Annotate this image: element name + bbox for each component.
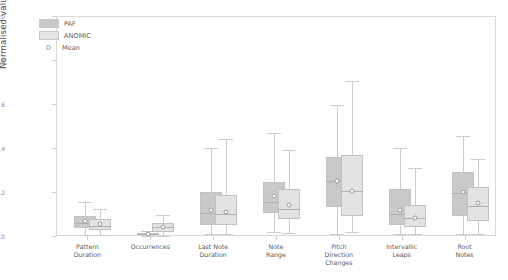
x-tick-mark (402, 236, 403, 240)
x-tick-label: NoteRange (241, 243, 311, 259)
circle-open-icon (46, 45, 51, 50)
whisker-cap-bottom (282, 233, 296, 234)
mean-marker (161, 224, 166, 229)
whisker-cap-bottom (345, 232, 359, 233)
y-tick-label: 1.0 (0, 13, 5, 20)
whisker-cap-bottom (393, 234, 407, 235)
whisker-cap-bottom (78, 235, 92, 236)
x-tick-mark (465, 236, 466, 240)
x-tick-label-line: Notes (430, 251, 500, 259)
whisker-cap-top (456, 136, 470, 137)
whisker-cap-bottom (93, 235, 107, 236)
x-tick-label-line: Last Note (178, 243, 248, 251)
x-tick-label: Last NoteDuration (178, 243, 248, 259)
whisker-cap-bottom (456, 234, 470, 235)
whisker-cap-bottom (330, 234, 344, 235)
whisker-cap-top (282, 150, 296, 151)
whisker-cap-top (345, 81, 359, 82)
x-tick-mark (339, 236, 340, 240)
x-tick-label-line: Direction (304, 251, 374, 259)
mean-marker (475, 201, 480, 206)
whisker-cap-top (78, 202, 92, 203)
whisker-cap-bottom (408, 234, 422, 235)
median-line (278, 209, 300, 210)
whisker-cap-bottom (267, 232, 281, 233)
x-tick-label: RootNotes (430, 243, 500, 259)
whisker-cap-top (408, 168, 422, 169)
x-tick-label-line: Range (241, 251, 311, 259)
y-tick-label: 0.2 (0, 189, 5, 196)
median-line (467, 206, 489, 207)
x-tick-label-line: Root (430, 243, 500, 251)
whisker-cap-bottom (471, 234, 485, 235)
box[interactable] (341, 155, 363, 217)
legend-label: ANOMIC (64, 32, 91, 40)
mean-marker (224, 209, 229, 214)
x-tick-mark (87, 236, 88, 240)
mean-marker (412, 215, 417, 220)
legend-item-anomic[interactable]: ANOMIC (39, 30, 119, 41)
x-tick-label-line: Intervallic (367, 243, 437, 251)
legend-mean-circle-icon (39, 44, 57, 51)
x-tick-mark (276, 236, 277, 240)
whisker-cap-top (204, 148, 218, 149)
mean-marker (272, 194, 277, 199)
x-tick-mark (150, 236, 151, 240)
whisker-cap-top (393, 148, 407, 149)
mean-marker (83, 219, 88, 224)
y-tick-mark (52, 236, 56, 237)
mean-marker (397, 208, 402, 213)
mean-marker (98, 221, 103, 226)
legend-swatch-icon (39, 31, 59, 40)
whisker-cap-bottom (204, 234, 218, 235)
whisker-cap-top (156, 215, 170, 216)
legend-label: Mean (62, 44, 80, 52)
mean-marker (460, 190, 465, 195)
x-tick-label: Occurrences (115, 243, 185, 251)
whisker-cap-top (330, 105, 344, 106)
x-tick-label: PatternDuration (52, 243, 122, 259)
whisker-cap-top (93, 209, 107, 210)
x-tick-label-line: Pitch (304, 243, 374, 251)
x-tick-mark (213, 236, 214, 240)
legend: PAFANOMICMean (39, 18, 119, 54)
legend-label: PAF (64, 20, 76, 28)
x-tick-label-line: Duration (52, 251, 122, 259)
boxplot-figure: Normalised values 0.00.20.40.60.81.0 Pat… (0, 0, 508, 280)
x-tick-label-line: Pattern (52, 243, 122, 251)
x-tick-label-line: Note (241, 243, 311, 251)
whisker-cap-bottom (219, 234, 233, 235)
y-tick-label: 0.0 (0, 233, 5, 240)
whisker-cap-top (219, 139, 233, 140)
x-tick-label: IntervallicLeaps (367, 243, 437, 259)
plot-area (56, 16, 496, 236)
whisker-cap-bottom (156, 236, 170, 237)
x-tick-label-line: Changes (304, 259, 374, 267)
x-tick-label-line: Leaps (367, 251, 437, 259)
legend-item-mean[interactable]: Mean (39, 42, 119, 53)
y-tick-label: 0.8 (0, 57, 5, 64)
x-tick-label: PitchDirectionChanges (304, 243, 374, 267)
mean-marker (349, 188, 354, 193)
mean-marker (334, 179, 339, 184)
legend-item-paf[interactable]: PAF (39, 18, 119, 29)
x-tick-label-line: Duration (178, 251, 248, 259)
y-tick-label: 0.6 (0, 101, 5, 108)
legend-swatch-icon (39, 19, 59, 28)
mean-marker (287, 202, 292, 207)
x-tick-label-line: Occurrences (115, 243, 185, 251)
y-tick-label: 0.4 (0, 145, 5, 152)
mean-marker (209, 208, 214, 213)
whisker-cap-top (267, 133, 281, 134)
whisker-cap-top (471, 159, 485, 160)
